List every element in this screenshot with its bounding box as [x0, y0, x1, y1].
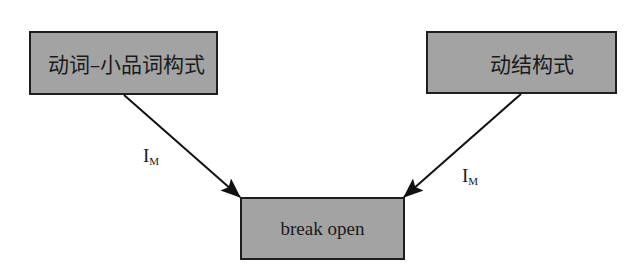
node-label: break open: [281, 217, 365, 240]
edge-label-right: IM: [462, 166, 478, 185]
node-break-open: break open: [240, 197, 405, 260]
node-label: 动词–小品词构式: [42, 48, 206, 78]
node-label: 动结构式: [470, 48, 574, 78]
node-resultative-construction: 动结构式: [426, 31, 617, 94]
diagram-canvas: 动词–小品词构式 动结构式 break open IM IM: [0, 0, 642, 279]
edge-label-left: IM: [143, 146, 159, 165]
edge-label-subscript: M: [468, 175, 478, 187]
node-verb-particle-construction: 动词–小品词构式: [29, 31, 218, 95]
edge-label-subscript: M: [149, 155, 159, 167]
arrow-left-to-bottom: [124, 95, 240, 197]
